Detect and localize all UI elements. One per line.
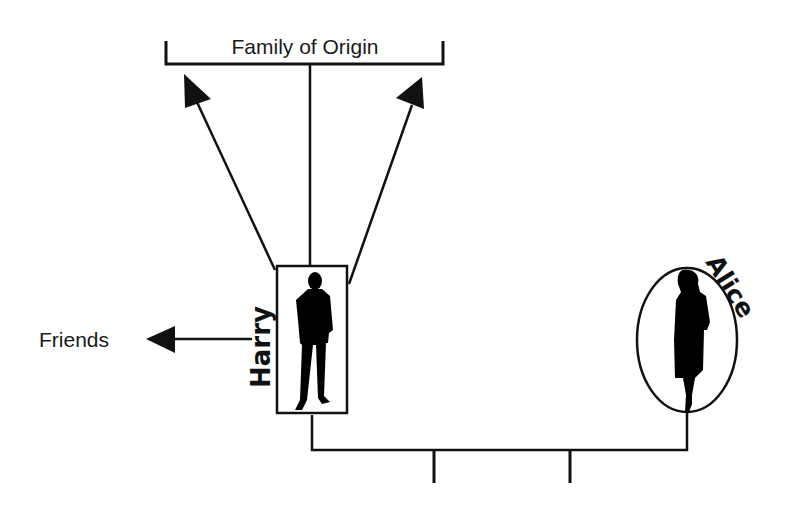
alice-node: Alice: [637, 250, 761, 412]
arrowhead-icon: [396, 77, 424, 109]
friends-arrow: [146, 326, 252, 353]
marriage-line: [312, 413, 687, 450]
harry-node: Harry: [246, 266, 347, 413]
arrowhead-icon: [184, 74, 211, 108]
left-origin-arrow: [184, 74, 275, 270]
alice-name-label: Alice: [700, 250, 761, 323]
friends-label: Friends: [39, 328, 109, 351]
man-silhouette-icon: [295, 272, 333, 410]
right-origin-arrow: [349, 77, 424, 284]
arrowhead-icon: [146, 326, 175, 353]
woman-silhouette-icon: [674, 270, 710, 412]
family-diagram: Family of Origin Friends Harry Alice: [0, 0, 801, 509]
harry-name-label: Harry: [246, 306, 276, 388]
family-of-origin-label: Family of Origin: [231, 35, 378, 58]
